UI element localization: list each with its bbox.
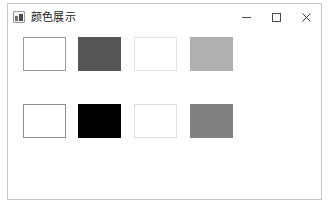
swatch-row-2 xyxy=(8,104,321,138)
app-window: 颜色展示 xyxy=(7,3,322,200)
client-area xyxy=(8,30,321,199)
window-controls xyxy=(231,4,321,30)
maximize-icon xyxy=(271,12,282,23)
app-window-icon xyxy=(13,11,25,23)
swatch-1-1[interactable] xyxy=(23,37,66,71)
minimize-icon xyxy=(241,12,252,23)
swatch-2-2[interactable] xyxy=(78,104,121,138)
swatch-row-1 xyxy=(8,37,321,71)
title-bar: 颜色展示 xyxy=(8,4,321,30)
swatch-2-3[interactable] xyxy=(134,104,177,138)
swatch-2-4[interactable] xyxy=(190,104,233,138)
close-button[interactable] xyxy=(291,4,321,30)
minimize-button[interactable] xyxy=(231,4,261,30)
maximize-button[interactable] xyxy=(261,4,291,30)
swatch-1-4[interactable] xyxy=(190,37,233,71)
swatch-2-1[interactable] xyxy=(23,104,66,138)
close-icon xyxy=(301,12,312,23)
swatch-1-3[interactable] xyxy=(134,37,177,71)
swatch-1-2[interactable] xyxy=(78,37,121,71)
window-title: 颜色展示 xyxy=(31,4,76,30)
